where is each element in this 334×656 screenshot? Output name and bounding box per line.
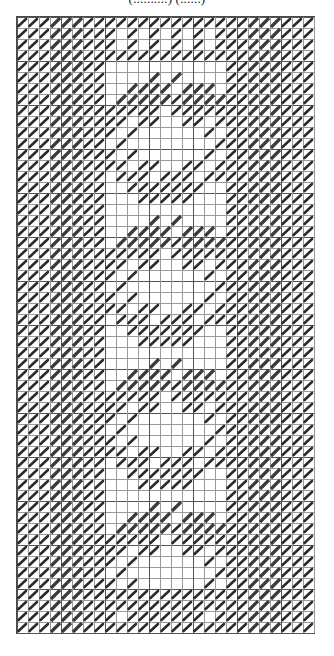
gridline <box>248 17 249 633</box>
gridline <box>50 17 51 633</box>
gridline <box>105 17 106 633</box>
pattern-chart <box>16 16 315 634</box>
gridline <box>303 17 304 633</box>
gridline <box>215 17 216 633</box>
gridline <box>39 17 40 633</box>
gridline <box>28 17 29 633</box>
stitch-grid <box>16 16 315 634</box>
gridline <box>127 17 128 633</box>
gridline <box>72 17 73 633</box>
gridline <box>94 17 95 633</box>
gridline <box>237 17 238 633</box>
gridline <box>61 17 62 633</box>
gridline <box>160 17 161 633</box>
chart-title: (..........) (......) <box>0 0 334 7</box>
gridline <box>281 17 282 633</box>
gridline <box>314 17 315 633</box>
gridline <box>226 17 227 633</box>
gridline <box>138 17 139 633</box>
gridline <box>83 17 84 633</box>
gridline <box>259 17 260 633</box>
gridline <box>116 17 117 633</box>
gridline <box>149 17 150 633</box>
gridline <box>270 17 271 633</box>
gridline <box>17 633 314 634</box>
gridline <box>182 17 183 633</box>
gridline <box>17 17 18 633</box>
gridline <box>204 17 205 633</box>
gridline <box>171 17 172 633</box>
gridline <box>292 17 293 633</box>
gridline <box>193 17 194 633</box>
